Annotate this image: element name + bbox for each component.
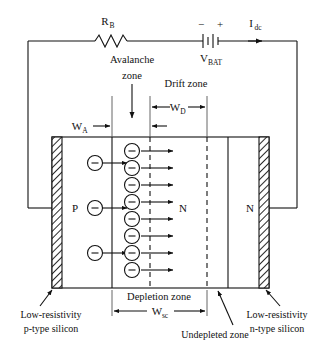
right-contact-caption-line1: Low-resistivity [246,309,307,320]
battery-label: V [200,52,208,64]
current-sub: dc [254,23,262,32]
wa-label: W [72,120,83,132]
right-contact-hatch [259,137,269,288]
diagram-canvas: R B − + V BAT I dc Avalanche zone Drift … [0,0,321,345]
device-body [52,137,269,288]
drift-zone-label: Drift zone [165,78,208,89]
left-contact-caption-line2: p-type silicon [24,323,79,334]
right-contact-callout-leader [266,290,280,306]
undepleted-callout-leader [218,291,233,325]
p-region-label: P [72,202,78,214]
wa-sub: A [82,126,88,135]
resistor-sub: B [109,21,114,30]
left-contact-callout-leader [40,290,52,306]
battery-minus-sign: − [198,18,204,30]
n-region-label: N [179,202,187,214]
depletion-zone-label: Depletion zone [127,291,191,302]
wsc-sub: sc [162,311,169,320]
n-contact-region-label: N [246,202,254,214]
current-label: I [249,17,253,29]
battery-plus-sign: + [217,18,223,30]
avalanche-zone-label-line1: Avalanche [110,54,154,65]
left-contact-caption-line1: Low-resistivity [20,309,81,320]
resistor-symbol [95,35,127,47]
impatt-diode-figure: R B − + V BAT I dc Avalanche zone Drift … [0,0,321,345]
right-contact-caption-line2: n-type silicon [250,323,305,334]
undepleted-zone-caption: Undepleted zone [181,329,249,340]
battery-sub: BAT [208,58,223,67]
left-contact-hatch [52,137,62,288]
resistor-label: R [101,15,109,27]
wd-label: W [170,101,181,113]
avalanche-zone-label-line2: zone [122,70,142,81]
wd-sub: D [180,107,186,116]
